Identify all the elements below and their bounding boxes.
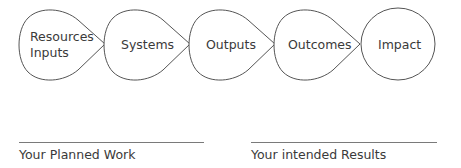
stage-label-resources: Resources (30, 29, 94, 44)
planned-work-rule (19, 142, 204, 143)
stage-label-outputs: Outputs (206, 37, 256, 52)
caption-planned-work: Your Planned Work (19, 147, 135, 162)
stage-label-inputs: Inputs (30, 45, 69, 60)
caption-intended-results: Your intended Results (251, 147, 386, 162)
stage-label-impact: Impact (378, 37, 421, 52)
stage-label-outcomes: Outcomes (288, 37, 352, 52)
intended-results-rule (251, 142, 437, 143)
stage-label-systems: Systems (121, 37, 174, 52)
